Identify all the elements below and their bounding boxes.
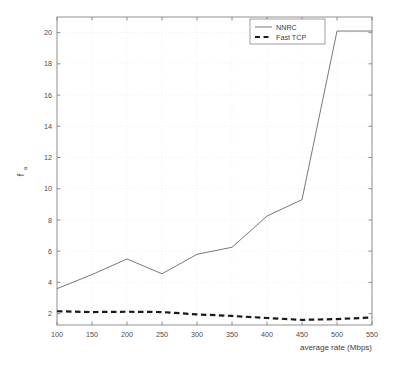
x-tick-label: 150 [86,330,98,339]
y-tick-label: 6 [48,247,52,256]
x-tick-label: 500 [331,330,343,339]
y-tick-label: 14 [44,122,52,131]
y-tick-label: 2 [48,309,52,318]
x-tick-label: 450 [296,330,308,339]
legend-label-nnrc: NNRC [276,23,297,32]
y-tick-label: 10 [44,184,52,193]
x-tick-label: 400 [261,330,273,339]
y-tick-label: 16 [44,91,52,100]
legend-label-fast-tcp: Fast TCP [276,33,306,42]
y-tick-label: 18 [44,59,52,68]
x-tick-label: 350 [226,330,238,339]
y-tick-label: 12 [44,153,52,162]
x-tick-label: 100 [51,330,63,339]
y-tick-label: 4 [48,278,52,287]
chart-legend[interactable]: NNRCFast TCP [250,19,325,44]
chart-figure: 100150200250300350400450500550 246810121… [0,0,399,365]
y-tick-label: 20 [44,28,52,37]
x-axis-title: average rate (Mbps) [300,343,372,352]
x-tick-label: 250 [156,330,168,339]
chart-svg: 100150200250300350400450500550 246810121… [0,0,399,365]
x-tick-label: 300 [191,330,203,339]
x-tick-label: 550 [366,330,378,339]
y-tick-label: 8 [48,216,52,225]
x-tick-label: 200 [121,330,133,339]
